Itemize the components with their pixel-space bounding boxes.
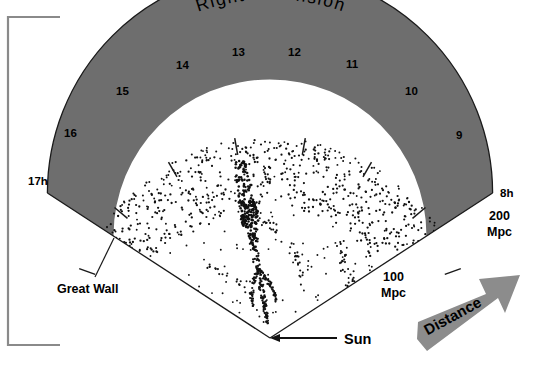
ra-tick-11 <box>363 162 372 177</box>
galaxy-point <box>96 321 98 323</box>
galaxy-point <box>254 246 257 249</box>
galaxy-point <box>355 203 357 205</box>
galaxy-point <box>95 251 97 253</box>
galaxy-point <box>214 324 216 326</box>
galaxy-point <box>352 214 354 216</box>
galaxy-point <box>148 181 150 183</box>
galaxy-point <box>445 294 447 296</box>
galaxy-point <box>464 296 466 298</box>
galaxy-point <box>168 233 170 235</box>
galaxy-point <box>343 295 345 297</box>
galaxy-point <box>349 222 351 224</box>
galaxy-point <box>388 242 390 244</box>
galaxy-point <box>335 177 337 179</box>
galaxy-point <box>252 209 255 212</box>
galaxy-point <box>281 172 283 174</box>
galaxy-point <box>340 243 342 245</box>
galaxy-point <box>131 323 133 325</box>
galaxy-point <box>301 274 303 276</box>
galaxy-point <box>371 189 373 191</box>
galaxy-point <box>322 191 324 193</box>
galaxy-point <box>407 197 409 199</box>
galaxy-point <box>365 236 367 238</box>
wedge-diagram: Right ascension 17h 16 15 14 13 12 11 10… <box>0 0 540 367</box>
great-wall-label: Great Wall <box>57 282 118 296</box>
galaxy-point <box>348 277 350 279</box>
galaxy-point <box>257 219 260 222</box>
galaxy-point <box>391 261 393 263</box>
galaxy-point <box>323 200 325 202</box>
galaxy-point <box>160 237 162 239</box>
galaxy-point <box>258 202 260 204</box>
galaxy-point <box>73 310 75 312</box>
galaxy-point <box>417 315 419 317</box>
galaxy-point <box>70 315 72 317</box>
galaxy-point <box>269 281 271 283</box>
galaxy-point <box>256 273 258 275</box>
galaxy-point <box>409 291 411 293</box>
galaxy-point <box>140 315 142 317</box>
sun-label: Sun <box>344 331 371 347</box>
galaxy-point <box>181 180 183 182</box>
galaxy-point <box>218 211 220 213</box>
galaxy-point <box>338 152 340 154</box>
galaxy-point <box>253 228 255 230</box>
galaxy-point <box>203 242 205 244</box>
galaxy-point <box>132 282 134 284</box>
galaxy-point <box>94 308 96 310</box>
galaxy-point <box>427 243 429 245</box>
galaxy-point <box>114 243 116 245</box>
galaxy-point <box>105 321 107 323</box>
galaxy-point <box>262 272 264 274</box>
galaxy-point <box>135 195 137 197</box>
galaxy-point <box>180 231 182 233</box>
galaxy-point <box>264 176 266 178</box>
galaxy-point <box>328 206 330 208</box>
galaxy-point <box>307 269 309 271</box>
galaxy-point <box>209 263 211 265</box>
galaxy-point <box>115 297 117 299</box>
galaxy-point <box>253 277 255 279</box>
galaxy-point <box>275 199 277 201</box>
galaxy-point <box>302 194 304 196</box>
galaxy-point <box>452 268 454 270</box>
galaxy-point <box>136 298 138 300</box>
galaxy-point <box>448 254 450 256</box>
galaxy-point <box>327 203 329 205</box>
galaxy-point <box>154 201 156 203</box>
galaxy-point <box>243 190 246 193</box>
galaxy-point <box>297 176 299 178</box>
galaxy-point <box>135 306 137 308</box>
galaxy-point <box>398 305 400 307</box>
galaxy-point <box>293 173 295 175</box>
ra-label-15: 15 <box>116 85 129 97</box>
galaxy-point <box>274 301 276 303</box>
galaxy-point <box>160 277 162 279</box>
galaxy-point <box>159 333 161 335</box>
galaxy-point <box>238 312 240 314</box>
galaxy-point <box>258 316 260 318</box>
galaxy-point <box>429 217 431 219</box>
galaxy-point <box>342 269 344 271</box>
galaxy-point <box>344 261 346 263</box>
galaxy-point <box>333 205 335 207</box>
galaxy-point <box>208 223 210 225</box>
galaxy-point <box>246 280 248 282</box>
galaxy-point <box>130 309 132 311</box>
galaxy-point <box>177 232 179 234</box>
galaxy-point <box>375 178 377 180</box>
galaxy-point <box>297 256 299 258</box>
galaxy-point <box>141 260 143 262</box>
galaxy-point <box>321 210 323 212</box>
galaxy-point <box>385 220 387 222</box>
galaxy-point <box>237 211 239 213</box>
galaxy-point <box>395 235 397 237</box>
galaxy-point <box>268 219 270 221</box>
galaxy-point <box>160 239 162 241</box>
galaxy-point <box>354 158 356 160</box>
galaxy-point <box>360 196 362 198</box>
galaxy-point <box>103 299 105 301</box>
galaxy-point <box>265 320 267 322</box>
galaxy-point <box>135 256 137 258</box>
galaxy-point <box>373 167 375 169</box>
